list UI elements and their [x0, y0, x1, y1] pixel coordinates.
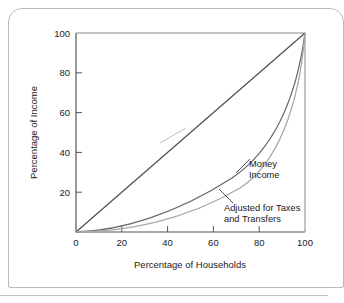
- y-tick-label-100: 100: [54, 28, 70, 39]
- x-tick-label-20: 20: [117, 237, 128, 248]
- y-axis-ticks: [76, 73, 82, 192]
- adjusted-income-label-line2: and Transfers: [224, 214, 281, 224]
- money-income-annotation: Money Income: [249, 159, 280, 180]
- adjusted-income-leader-line: [219, 189, 233, 203]
- y-tick-label-40: 40: [59, 147, 70, 158]
- x-axis-tick-labels: 0 20 40 60 80 100: [73, 237, 313, 248]
- adjusted-income-annotation: Adjusted for Taxes and Transfers: [224, 203, 301, 224]
- x-axis-title: Percentage of Households: [134, 259, 246, 270]
- x-tick-label-100: 100: [297, 237, 313, 248]
- y-tick-label-20: 20: [59, 187, 70, 198]
- x-axis-ticks: [122, 226, 259, 232]
- money-income-label-line1: Money: [249, 159, 277, 169]
- x-tick-label-60: 60: [208, 237, 219, 248]
- adjusted-income-label-line1: Adjusted for Taxes: [224, 203, 301, 213]
- y-axis-tick-labels: 100 80 60 40 20: [54, 28, 70, 198]
- x-tick-label-80: 80: [254, 237, 265, 248]
- x-tick-label-0: 0: [73, 237, 78, 248]
- x-tick-label-40: 40: [162, 237, 173, 248]
- y-tick-label-60: 60: [59, 107, 70, 118]
- y-axis-title: Percentage of Income: [28, 86, 39, 179]
- y-tick-label-80: 80: [59, 67, 70, 78]
- equality-leader-line: [160, 128, 186, 143]
- money-income-label-line2: Income: [249, 170, 280, 180]
